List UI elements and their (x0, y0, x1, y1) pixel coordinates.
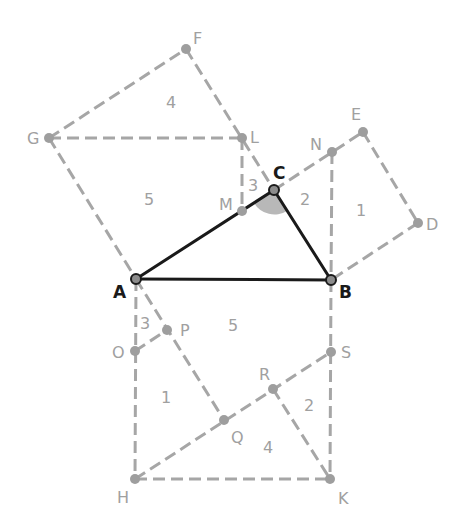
label-P: P (180, 321, 190, 340)
point-O (130, 346, 140, 356)
point-Q (219, 415, 229, 425)
construction-points (44, 44, 423, 484)
label-G: G (27, 129, 39, 148)
label-E: E (351, 105, 361, 124)
point-labels: A B C D E F G H K L M N O P Q R S (27, 29, 438, 508)
point-M (237, 206, 247, 216)
label-D: D (426, 215, 438, 234)
label-L: L (250, 128, 259, 147)
side-AB (136, 279, 331, 280)
label-Q: Q (231, 428, 244, 447)
line-NB (331, 152, 332, 280)
region-number: 4 (263, 438, 273, 457)
label-F: F (193, 29, 202, 48)
label-R: R (259, 365, 270, 384)
line-OP (135, 330, 167, 351)
pythagorean-diagram: A B C D E F G H K L M N O P Q R S 4 5 3 … (0, 0, 467, 529)
point-G (44, 133, 54, 143)
point-F (181, 44, 191, 54)
line-DB (331, 223, 418, 280)
point-H (130, 474, 140, 484)
label-M: M (219, 195, 233, 214)
line-RK (273, 389, 330, 479)
region-number: 4 (166, 93, 176, 112)
region-number: 2 (304, 396, 314, 415)
region-number: 3 (248, 176, 258, 195)
line-AQ (136, 279, 224, 420)
point-D (413, 218, 423, 228)
point-P (162, 325, 172, 335)
line-AH (135, 279, 136, 479)
region-number: 2 (300, 190, 310, 209)
label-N: N (310, 135, 322, 154)
region-number: 3 (140, 314, 150, 333)
line-BK (330, 280, 331, 479)
label-S: S (341, 343, 351, 362)
label-K: K (338, 489, 349, 508)
side-AC (136, 190, 274, 279)
point-N (327, 147, 337, 157)
label-H: H (117, 488, 129, 507)
point-E (358, 127, 368, 137)
point-A (131, 274, 141, 284)
point-C (269, 185, 279, 195)
label-C: C (273, 163, 285, 183)
point-R (268, 384, 278, 394)
line-GA (49, 138, 136, 279)
region-number: 1 (161, 388, 171, 407)
region-number: 5 (144, 190, 154, 209)
line-FC (186, 49, 274, 190)
point-B (326, 275, 336, 285)
region-number: 5 (228, 316, 238, 335)
construction-lines (49, 49, 418, 479)
point-K (325, 474, 335, 484)
label-B: B (339, 282, 352, 302)
region-number: 1 (356, 201, 366, 220)
point-L (237, 133, 247, 143)
line-ED (363, 132, 418, 223)
label-A: A (113, 282, 127, 302)
point-S (326, 347, 336, 357)
label-O: O (112, 343, 125, 362)
line-HS (135, 352, 331, 479)
